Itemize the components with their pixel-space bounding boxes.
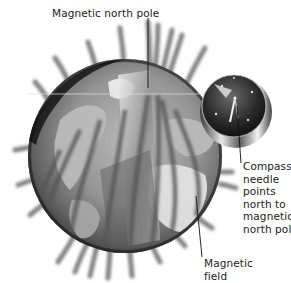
label-compass-needle: Compass needle points north to magnetic … xyxy=(243,160,291,235)
diagram-illustration xyxy=(0,0,291,283)
label-line: field xyxy=(204,270,253,283)
label-magnetic-field: Magnetic field xyxy=(204,257,253,282)
compass xyxy=(200,75,272,148)
diagram-stage: Magnetic north pole Compass needle point… xyxy=(0,0,291,283)
label-line: needle xyxy=(243,173,291,186)
label-line: north to xyxy=(243,198,291,211)
label-line: points xyxy=(243,185,291,198)
label-line: Compass xyxy=(243,160,291,173)
label-line: north pole xyxy=(243,223,291,236)
label-text: Magnetic north pole xyxy=(52,7,159,20)
label-line: magnetic xyxy=(243,210,291,223)
label-magnetic-north-pole: Magnetic north pole xyxy=(52,7,159,20)
label-line: Magnetic xyxy=(204,257,253,270)
